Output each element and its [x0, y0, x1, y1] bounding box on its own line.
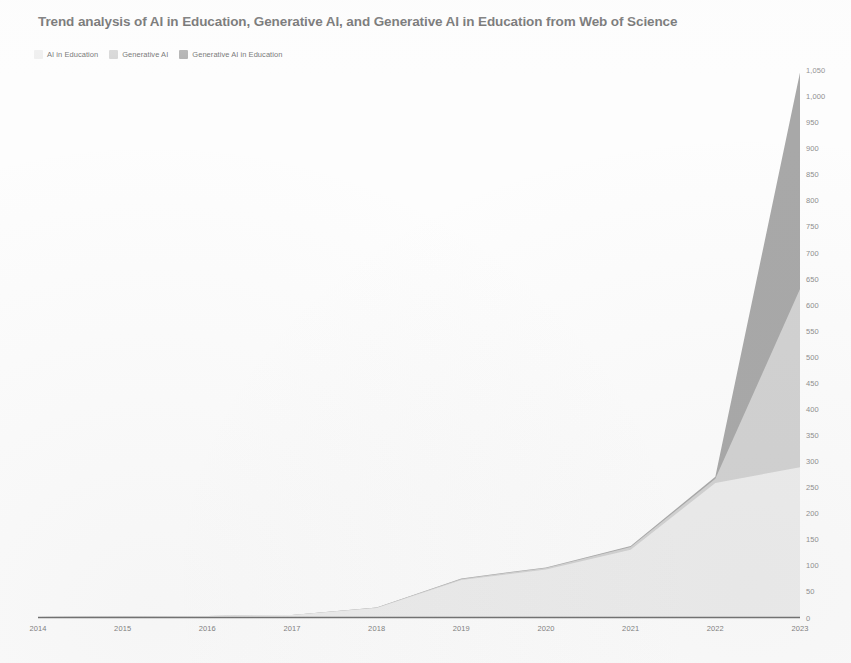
x-tick-label: 2023	[791, 624, 808, 633]
y-tick-label: 600	[806, 300, 819, 309]
x-tick-label: 2021	[622, 624, 639, 633]
y-tick-label: 500	[806, 352, 819, 361]
y-tick-label: 950	[806, 118, 819, 127]
area-band-ai-in-education	[38, 467, 800, 617]
y-tick-label: 850	[806, 170, 819, 179]
x-tick-label: 2022	[707, 624, 724, 633]
x-tick-label: 2016	[199, 624, 216, 633]
y-tick-label: 200	[806, 509, 819, 518]
y-tick-label: 150	[806, 535, 819, 544]
y-tick-label: 300	[806, 457, 819, 466]
x-tick-label: 2015	[114, 624, 131, 633]
area-series-group	[38, 73, 800, 618]
y-tick-label: 700	[806, 248, 819, 257]
y-tick-label: 550	[806, 326, 819, 335]
y-tick-label: 100	[806, 561, 819, 570]
y-tick-label: 450	[806, 378, 819, 387]
y-tick-label: 1,000	[806, 92, 825, 101]
x-tick-label: 2020	[537, 624, 554, 633]
y-tick-label: 900	[806, 144, 819, 153]
x-tick-label: 2018	[368, 624, 385, 633]
x-tick-label: 2019	[453, 624, 470, 633]
y-axis: 0501001502002503003504004505005506006507…	[806, 0, 851, 663]
y-tick-label: 50	[806, 587, 815, 596]
y-tick-label: 350	[806, 431, 819, 440]
y-tick-label: 250	[806, 483, 819, 492]
y-tick-label: 0	[806, 613, 810, 622]
y-tick-label: 400	[806, 404, 819, 413]
x-tick-label: 2017	[283, 624, 300, 633]
y-tick-label: 650	[806, 274, 819, 283]
stacked-area-plot	[0, 0, 851, 663]
chart-figure: Trend analysis of AI in Education, Gener…	[0, 0, 851, 663]
y-tick-label: 1,050	[806, 66, 825, 75]
x-axis: 2014201520162017201820192020202120222023	[0, 624, 851, 644]
y-tick-label: 750	[806, 222, 819, 231]
x-tick-label: 2014	[29, 624, 46, 633]
y-tick-label: 800	[806, 196, 819, 205]
